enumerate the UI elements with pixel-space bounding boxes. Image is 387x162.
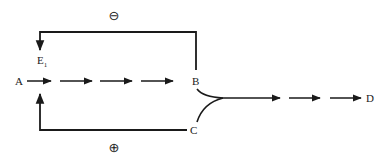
positive-feedback-symbol: ⊕ xyxy=(109,140,120,155)
negative-feedback-symbol: ⊖ xyxy=(109,8,120,23)
negative-feedback-loop xyxy=(40,32,196,70)
positive-feedback-loop xyxy=(40,94,187,130)
convergence-curves xyxy=(197,89,223,122)
feedback-pathway-diagram: ⊖ E1 A B ⊕ C xyxy=(0,0,387,162)
node-c-label: C xyxy=(190,124,197,136)
node-a-label: A xyxy=(15,75,23,87)
diagram-canvas: ⊖ E1 A B ⊕ C xyxy=(0,0,387,162)
enzyme-e1-label: E1 xyxy=(37,54,48,69)
node-d-label: D xyxy=(366,92,374,104)
node-b-label: B xyxy=(192,75,199,87)
